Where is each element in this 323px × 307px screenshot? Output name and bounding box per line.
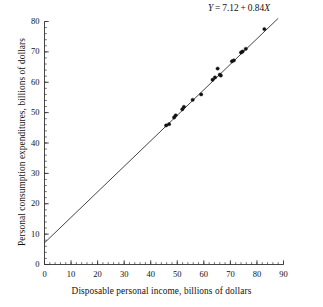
- data-point: [263, 27, 266, 30]
- x-axis-tick-label: 0: [34, 270, 56, 279]
- y-axis-tick-label: 30: [18, 169, 40, 178]
- data-point: [232, 59, 235, 62]
- data-point: [174, 114, 177, 117]
- x-axis-tick-label: 10: [60, 270, 82, 279]
- x-axis-tick-label: 50: [166, 270, 188, 279]
- y-axis-tick-label: 0: [18, 260, 40, 269]
- x-axis-tick-label: 60: [193, 270, 215, 279]
- scatter-chart-figure: Y = 7.12 + 0.84X Disposable personal inc…: [0, 0, 323, 307]
- data-point: [213, 76, 216, 79]
- data-point: [191, 98, 194, 101]
- x-axis-tick-label: 40: [140, 270, 162, 279]
- y-axis-tick-label: 10: [18, 230, 40, 239]
- x-axis-title: Disposable personal income, billions of …: [0, 286, 323, 296]
- y-axis-tick-label: 40: [18, 139, 40, 148]
- y-axis-tick-label: 60: [18, 78, 40, 87]
- data-point: [199, 93, 202, 96]
- x-axis-tick-label: 70: [219, 270, 241, 279]
- data-point: [182, 105, 185, 108]
- x-axis-tick-label: 20: [87, 270, 109, 279]
- data-point: [244, 47, 247, 50]
- equation-predictor: X: [264, 3, 270, 13]
- equation-intercept: 7.12: [222, 3, 238, 13]
- x-axis-tick-label: 80: [246, 270, 268, 279]
- data-point: [216, 67, 219, 70]
- chart-canvas: [0, 0, 323, 307]
- data-point: [219, 74, 222, 77]
- y-axis-tick-label: 50: [18, 108, 40, 117]
- y-axis-tick-label: 70: [18, 47, 40, 56]
- x-axis-tick-label: 90: [273, 270, 295, 279]
- y-axis-tick-label: 20: [18, 199, 40, 208]
- data-point: [167, 122, 170, 125]
- data-point: [241, 50, 244, 53]
- regression-equation-annotation: Y = 7.12 + 0.84X: [208, 3, 270, 13]
- equation-slope: 0.84: [248, 3, 264, 13]
- y-axis-tick-label: 80: [18, 17, 40, 26]
- x-axis-tick-label: 30: [113, 270, 135, 279]
